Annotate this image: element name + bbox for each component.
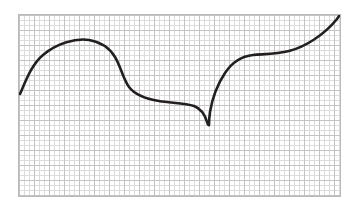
plot-frame	[18, 14, 341, 197]
curve-path-series-0	[20, 15, 341, 125]
curve-layer	[19, 15, 340, 196]
screenshot-root	[0, 0, 357, 211]
curve-svg	[19, 15, 341, 197]
